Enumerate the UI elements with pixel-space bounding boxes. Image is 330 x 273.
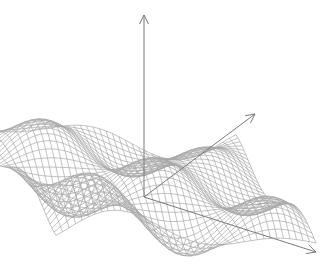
mesh-line: [217, 146, 297, 240]
wireframe-surface: [0, 119, 316, 256]
axes: [140, 15, 317, 254]
mesh-line: [0, 134, 256, 179]
mesh-line: [22, 120, 102, 216]
mesh-line: [2, 129, 82, 221]
y-axis: [144, 114, 255, 197]
surface-plot: [0, 0, 330, 273]
mesh-line: [236, 135, 316, 243]
